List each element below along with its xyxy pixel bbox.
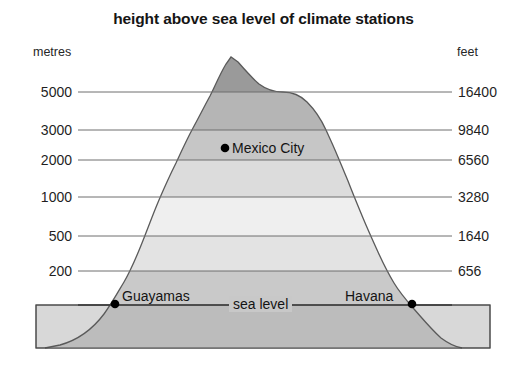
station-marker-mexico-city (221, 144, 230, 153)
climate-station-elevation-figure: height above sea level of climate statio… (0, 0, 527, 369)
mountain-profile-svg (0, 0, 527, 369)
station-label-mexico-city: Mexico City (232, 140, 304, 156)
band-3000-5000 (0, 92, 527, 130)
station-label-havana: Havana (345, 288, 393, 304)
station-label-guayamas: Guayamas (122, 288, 190, 304)
station-marker-guayamas (111, 300, 120, 309)
station-marker-havana (408, 300, 417, 309)
sea-level-text-label: sea level (229, 296, 292, 312)
band-above-5000 (0, 40, 527, 92)
band-1000-2000 (0, 160, 527, 197)
band-500-1000 (0, 197, 527, 236)
band-200-500 (0, 236, 527, 271)
